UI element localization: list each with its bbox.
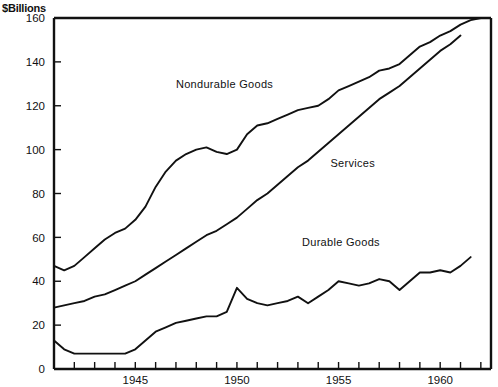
y-tick-label: 80 [32,188,45,200]
axis-frame [54,18,491,369]
series-layer [54,18,481,354]
chart-figure: $Billions 020406080100120140160 19451950… [0,0,498,387]
y-tick-label: 40 [32,275,45,287]
y-tick-label: 0 [39,363,45,375]
series-label-nondurable-goods: Nondurable Goods [176,78,273,90]
x-tick-label: 1950 [224,374,250,386]
series-line-durable-goods [54,257,471,354]
line-chart-plot: 020406080100120140160 1945195019551960 N… [0,0,498,387]
y-tick-label: 160 [26,12,45,24]
series-line-services [54,36,461,308]
y-tick-label: 20 [32,319,45,331]
y-tick-label: 100 [26,144,45,156]
series-line-nondurable-goods [54,18,481,270]
series-label-services: Services [330,157,375,169]
y-tick-label: 140 [26,56,45,68]
x-tick-label: 1955 [326,374,352,386]
y-tick-label: 60 [32,232,45,244]
series-annotations: Nondurable GoodsServicesDurable Goods [176,78,380,248]
x-tick-label: 1945 [123,374,149,386]
x-axis-ticks: 1945195019551960 [54,362,481,386]
x-tick-label: 1960 [427,374,453,386]
y-tick-label: 120 [26,100,45,112]
series-label-durable-goods: Durable Goods [302,236,380,248]
y-axis-ticks: 020406080100120140160 [26,12,61,375]
